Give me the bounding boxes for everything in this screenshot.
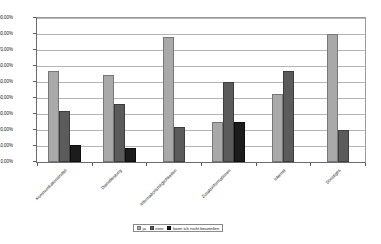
bar — [125, 148, 136, 162]
bar — [48, 71, 59, 162]
y-axis-tick-label: 80.00% — [0, 31, 13, 36]
bar — [212, 122, 223, 162]
y-axis-tick-label: 30.00% — [0, 111, 13, 116]
bar — [272, 94, 283, 162]
x-axis-label: Zusatzinformationen — [87, 168, 232, 244]
bar — [114, 104, 125, 162]
bar — [338, 130, 349, 162]
y-axis-tick-label: 50.00% — [0, 79, 13, 84]
bar — [223, 82, 234, 162]
legend-label: nein — [155, 226, 163, 231]
x-axis-label: Sonstiges — [196, 168, 341, 244]
legend-label: kann ich nicht beurteilen — [173, 226, 219, 231]
bar-group — [37, 18, 92, 162]
legend-label: ja — [143, 226, 146, 231]
bar — [327, 34, 338, 162]
legend-swatch-icon — [167, 226, 171, 230]
y-axis-tick-label: 70.00% — [0, 47, 13, 52]
legend-item: nein — [150, 226, 164, 231]
bar-group — [92, 18, 147, 162]
bar-group — [310, 18, 365, 162]
bar — [70, 145, 81, 162]
x-axis-tick-mark — [146, 163, 147, 166]
x-axis-tick-mark — [256, 163, 257, 166]
x-axis-tick-mark — [310, 163, 311, 166]
x-axis-tick-mark — [365, 163, 366, 166]
legend-item: kann ich nicht beurteilen — [167, 226, 219, 231]
x-axis-label: Dienstleistung — [0, 168, 123, 244]
y-axis-tick-label: 60.00% — [0, 63, 13, 68]
y-axis-tick-label: 20.00% — [0, 127, 13, 132]
legend-swatch-icon — [137, 226, 141, 230]
legend-swatch-icon — [150, 226, 154, 230]
y-axis-tick-label: 40.00% — [0, 95, 13, 100]
bar — [103, 75, 114, 162]
x-axis-tick-mark — [201, 163, 202, 166]
bar — [163, 37, 174, 162]
chart-legend: janeinkann ich nicht beurteilen — [133, 224, 223, 232]
bar — [283, 71, 294, 162]
bar — [174, 127, 185, 162]
x-axis-label: Informationsmöglichkeiten — [32, 168, 177, 244]
bar-series-container — [37, 18, 365, 162]
y-axis-tick-label: 90.00% — [0, 15, 13, 20]
legend-item: ja — [137, 226, 146, 231]
x-axis-tick-mark — [37, 163, 38, 166]
bar-group — [256, 18, 311, 162]
y-axis-tick-label: 10.00% — [0, 143, 13, 148]
bar — [59, 111, 70, 162]
bar-group — [146, 18, 201, 162]
bar-chart: 90.00%80.00%70.00%60.00%50.00%40.00%30.0… — [0, 0, 381, 244]
y-axis-tick-label: 0.00% — [0, 159, 13, 164]
bar — [234, 122, 245, 162]
x-axis-tick-mark — [92, 163, 93, 166]
bar-group — [201, 18, 256, 162]
x-axis-label: Kommunikationsmittel — [0, 168, 68, 244]
x-axis-label: Internet — [142, 168, 287, 244]
